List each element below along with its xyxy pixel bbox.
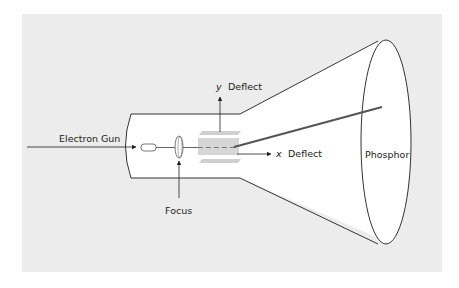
y-deflect-label: Deflect <box>228 81 262 92</box>
x-deflect-label: Deflect <box>288 148 322 159</box>
phosphor-label: Phosphor <box>365 149 409 160</box>
focus-label: Focus <box>165 205 192 216</box>
y-axis-label: y <box>215 81 222 92</box>
phosphor-screen <box>361 40 411 244</box>
electron-gun-label: Electron Gun <box>59 133 120 144</box>
x-axis-label: x <box>275 148 282 159</box>
crt-diagram: Electron Gun Focus y Deflect x Deflect P… <box>0 0 459 288</box>
